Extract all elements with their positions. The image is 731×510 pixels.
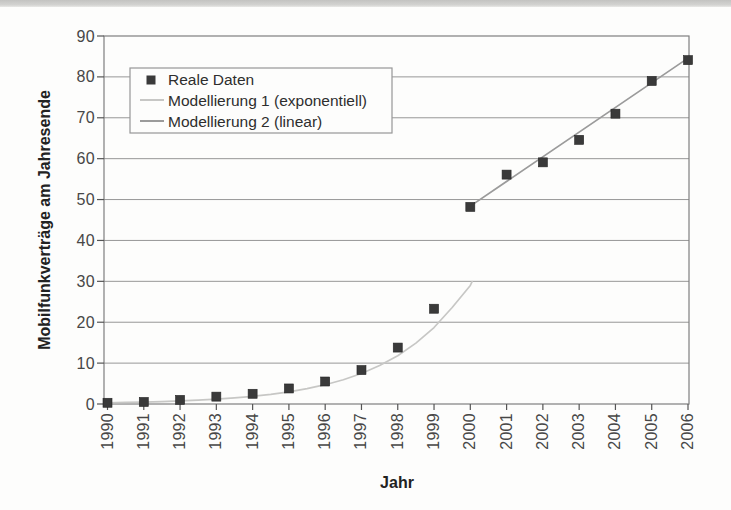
x-tick-label: 2002	[534, 413, 551, 450]
x-tick-label: 2000	[461, 413, 478, 450]
data-point-marker	[284, 384, 293, 393]
legend: Reale Daten Modellierung 1 (exponentiell…	[130, 68, 392, 133]
data-point-marker	[466, 202, 475, 211]
x-tick-label: 2005	[643, 413, 660, 450]
x-tick-label: 1999	[425, 413, 442, 450]
x-tick-label: 1994	[244, 413, 261, 450]
y-axis-title: Mobilfunkverträge am Jahresende	[36, 90, 53, 350]
x-tick-label: 2001	[498, 413, 515, 450]
y-tick-label: 70	[77, 109, 95, 126]
data-point-marker	[430, 304, 439, 313]
x-tick-label: 1998	[389, 413, 406, 450]
data-point-marker	[575, 135, 584, 144]
data-point-marker	[357, 366, 366, 375]
x-tick-label: 1992	[171, 413, 188, 450]
y-tick-label: 0	[86, 396, 95, 413]
x-tick-label: 2003	[570, 413, 587, 450]
data-point-marker	[684, 56, 693, 65]
y-tick-label: 20	[77, 314, 95, 331]
y-tick-label: 40	[77, 232, 95, 249]
legend-marker-reale-daten	[147, 76, 156, 85]
data-point-marker	[502, 170, 511, 179]
x-tick-label: 1993	[207, 413, 224, 450]
data-point-marker	[321, 377, 330, 386]
data-point-marker	[538, 158, 547, 167]
data-point-marker	[176, 395, 185, 404]
y-tick-label: 50	[77, 191, 95, 208]
data-point-marker	[611, 109, 620, 118]
legend-label-reale-daten: Reale Daten	[168, 71, 254, 88]
y-tick-label: 10	[77, 355, 95, 372]
data-point-marker	[139, 397, 148, 406]
x-tick-label: 1995	[280, 413, 297, 450]
x-tick-label: 2004	[606, 413, 623, 450]
data-point-marker	[212, 392, 221, 401]
x-axis-title: Jahr	[380, 474, 414, 491]
y-tick-label: 80	[77, 68, 95, 85]
x-tick-label: 2006	[679, 413, 696, 450]
legend-label-modellierung-1: Modellierung 1 (exponentiell)	[168, 92, 367, 109]
data-point-marker	[393, 343, 402, 352]
x-tick-label: 1996	[316, 413, 333, 450]
legend-label-modellierung-2: Modellierung 2 (linear)	[168, 113, 322, 130]
x-tick-label: 1997	[352, 413, 369, 450]
y-tick-label: 30	[77, 273, 95, 290]
x-tick-label: 1990	[99, 413, 116, 450]
data-point-marker	[647, 76, 656, 85]
data-point-marker	[103, 398, 112, 407]
y-tick-label: 60	[77, 150, 95, 167]
x-tick-label: 1991	[135, 413, 152, 450]
chart-figure: 0102030405060708090199019911992199319941…	[0, 0, 731, 510]
chart-svg: 0102030405060708090199019911992199319941…	[0, 0, 731, 510]
y-tick-label: 90	[77, 28, 95, 45]
data-point-marker	[248, 389, 257, 398]
